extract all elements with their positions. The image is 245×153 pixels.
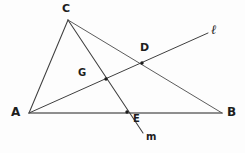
segment-AC bbox=[29, 20, 68, 113]
point-label-A: A bbox=[11, 106, 20, 118]
geometry-figure-svg bbox=[0, 0, 245, 153]
geometry-diagram-canvas: A B C D E G ℓ m bbox=[0, 0, 245, 153]
line-label-m: m bbox=[146, 132, 156, 142]
point-dot-D bbox=[140, 61, 143, 64]
point-dot-G bbox=[104, 77, 107, 80]
point-label-D: D bbox=[140, 42, 149, 53]
segment-CB bbox=[68, 20, 222, 113]
ray-line-l bbox=[29, 33, 208, 113]
line-label-l: ℓ bbox=[211, 23, 216, 36]
point-label-G: G bbox=[78, 68, 86, 78]
point-dot-E bbox=[125, 110, 128, 113]
point-label-C: C bbox=[62, 3, 70, 14]
point-label-B: B bbox=[227, 106, 236, 118]
point-label-E: E bbox=[133, 114, 140, 124]
